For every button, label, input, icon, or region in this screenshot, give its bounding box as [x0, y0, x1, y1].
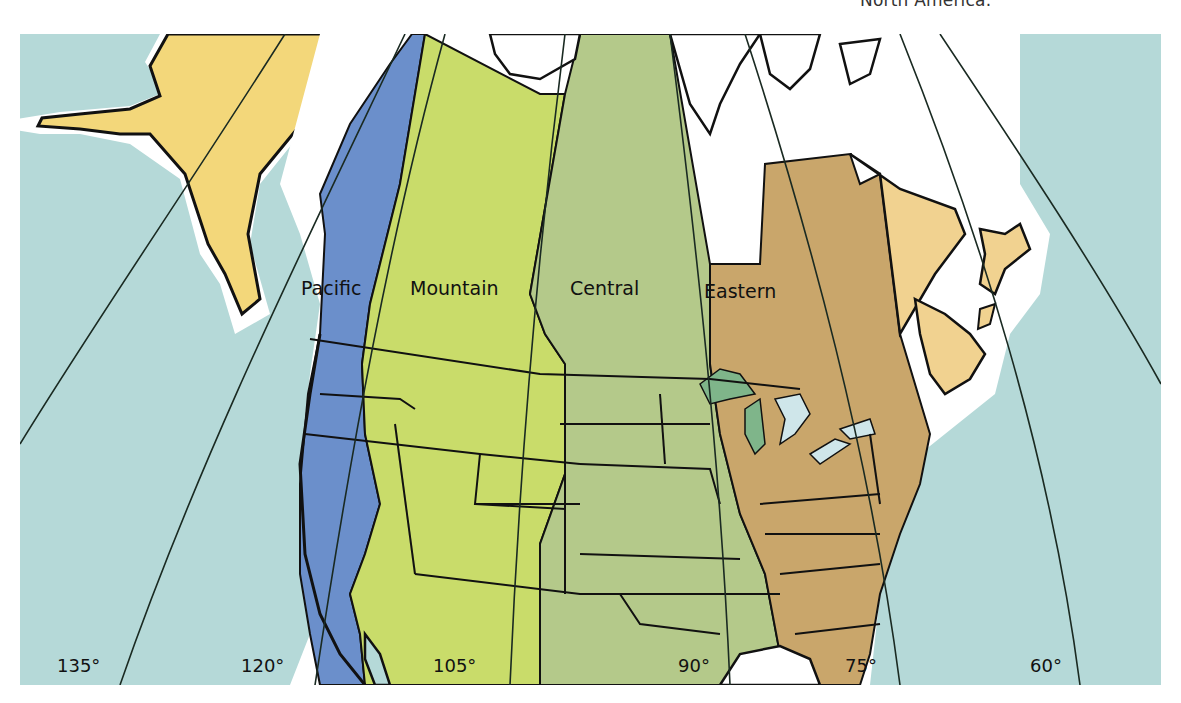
map-graphic [20, 34, 1161, 685]
longitude-label-120: 120° [241, 655, 284, 676]
longitude-label-105: 105° [433, 655, 476, 676]
longitude-label-135: 135° [57, 655, 100, 676]
time-zone-map: Pacific Mountain Central Eastern 135° 12… [20, 34, 1161, 685]
longitude-label-60: 60° [1030, 655, 1062, 676]
zone-label-eastern: Eastern [704, 280, 776, 302]
zone-label-pacific: Pacific [301, 277, 361, 299]
zone-label-central: Central [570, 277, 639, 299]
longitude-label-90: 90° [678, 655, 710, 676]
map-caption: North America. [860, 0, 991, 10]
zone-label-mountain: Mountain [410, 277, 499, 299]
longitude-label-75: 75° [845, 655, 877, 676]
